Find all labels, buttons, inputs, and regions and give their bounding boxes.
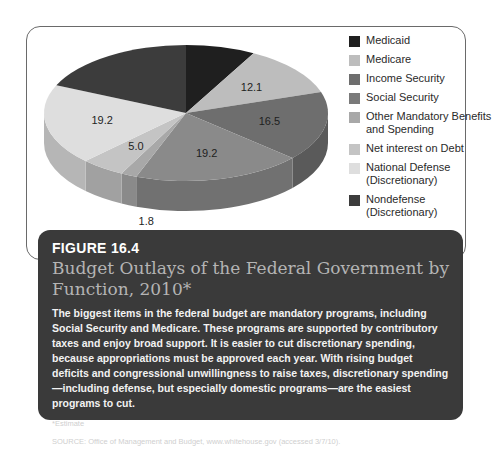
legend-label: Net interest on Debt	[366, 142, 464, 155]
pie-side-4	[122, 174, 137, 207]
legend-swatch	[349, 144, 360, 155]
pie-top-face	[44, 45, 328, 181]
legend-label: Medicare	[366, 53, 411, 66]
slice-value-label: 19.2	[91, 114, 112, 126]
legend-item-nondefense: Nondefense (Discretionary)	[349, 193, 499, 219]
slice-value-label: 5.0	[128, 140, 143, 152]
figure-caption: FIGURE 16.4 Budget Outlays of the Federa…	[38, 230, 463, 420]
legend-swatch	[349, 163, 360, 174]
legend-swatch	[349, 195, 360, 206]
legend-item-medicare: Medicare	[349, 53, 499, 66]
slice-value-label: 19.2	[196, 147, 217, 159]
slice-value-label: 12.1	[241, 81, 262, 93]
legend-label: Nondefense (Discretionary)	[366, 193, 499, 219]
legend-swatch	[349, 74, 360, 85]
figure-source: SOURCE: Office of Management and Budget,…	[52, 437, 451, 446]
figure-description: The biggest items in the federal budget …	[52, 306, 451, 411]
legend-label: Social Security	[366, 91, 439, 104]
legend-swatch	[349, 93, 360, 104]
legend-item-net-interest: Net interest on Debt	[349, 142, 499, 155]
legend-label: National Defense (Discretionary)	[366, 161, 499, 187]
slice-value-label: 1.8	[139, 215, 154, 227]
chart-legend: Medicaid Medicare Income Security Social…	[349, 34, 499, 225]
legend-swatch	[349, 112, 360, 123]
legend-swatch	[349, 55, 360, 66]
slice-value-label: 16.5	[259, 115, 280, 127]
legend-item-other-mandatory: Other Mandatory Benefits and Spending	[349, 110, 499, 136]
legend-item-social-security: Social Security	[349, 91, 499, 104]
legend-item-national-defense: National Defense (Discretionary)	[349, 161, 499, 187]
legend-label: Medicaid	[366, 34, 410, 47]
legend-item-income-security: Income Security	[349, 72, 499, 85]
figure-title: Budget Outlays of the Federal Government…	[52, 258, 451, 300]
figure-number: FIGURE 16.4	[52, 240, 451, 256]
legend-swatch	[349, 36, 360, 47]
figure-footnote: *Estimate	[52, 419, 451, 428]
legend-label: Income Security	[366, 72, 445, 85]
legend-item-medicaid: Medicaid	[349, 34, 499, 47]
legend-label: Other Mandatory Benefits and Spending	[366, 110, 499, 136]
